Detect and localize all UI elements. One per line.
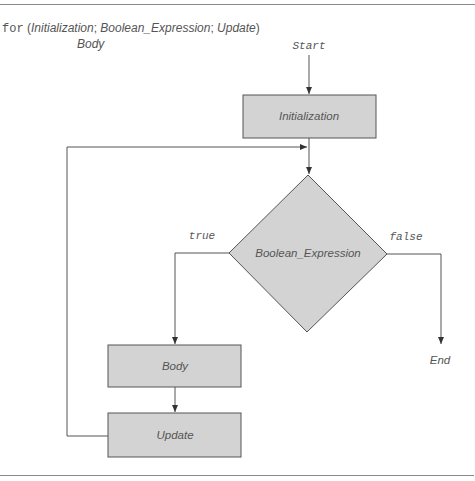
false-label: false: [389, 231, 422, 243]
true-branch-arrow: [175, 253, 229, 344]
true-label: true: [189, 230, 215, 242]
update-label: Update: [156, 429, 193, 441]
start-label: Start: [292, 40, 325, 52]
initialization-label: Initialization: [279, 110, 339, 122]
condition-label: Boolean_Expression: [255, 247, 361, 259]
body-label: Body: [162, 360, 188, 372]
end-label: End: [430, 354, 450, 366]
false-branch-arrow: [387, 254, 441, 344]
